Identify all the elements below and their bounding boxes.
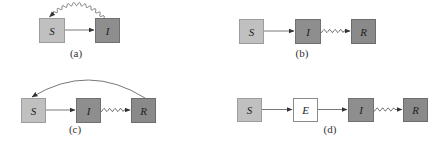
node-label: S: [249, 26, 255, 38]
node-label: S: [49, 25, 55, 37]
compartmental-model-diagram: SI(a)SIR(b)SIR(c)SEIR(d): [0, 0, 445, 144]
node-label: R: [139, 105, 147, 117]
panel-b: SIR(b): [240, 20, 376, 61]
caption-b: (b): [296, 47, 309, 60]
node-recovered-r: R: [404, 99, 428, 122]
caption-d: (d): [324, 123, 337, 136]
edge-r-to-s-arrow: [32, 80, 145, 98]
node-susceptible-s: S: [40, 19, 65, 43]
node-infected-i: I: [349, 99, 374, 122]
edge-i-to-r-wavy-arrow: [373, 108, 402, 111]
node-label: E: [301, 104, 309, 116]
edge-i-to-r-wavy-arrow: [100, 108, 130, 111]
caption-a: (a): [70, 47, 83, 60]
node-susceptible-s: S: [240, 20, 264, 44]
node-infected-i: I: [96, 19, 120, 43]
node-label: S: [247, 104, 253, 116]
node-label: R: [411, 104, 419, 116]
node-recovered-r: R: [132, 99, 156, 123]
panel-a: SI(a): [40, 3, 120, 60]
node-infected-i: I: [77, 99, 101, 123]
caption-c: (c): [69, 123, 82, 136]
node-label: R: [359, 26, 367, 38]
node-infected-i: I: [296, 20, 321, 44]
panel-c: SIR(c): [22, 80, 156, 136]
panel-d: SEIR(d): [238, 99, 428, 137]
node-exposed-e: E: [294, 99, 318, 122]
node-susceptible-s: S: [22, 99, 46, 123]
edge-i-to-s-wavy-arrow: [50, 3, 105, 18]
edge-i-to-r-wavy-arrow: [320, 29, 350, 32]
node-label: S: [31, 105, 37, 117]
node-recovered-r: R: [352, 20, 376, 44]
node-susceptible-s: S: [238, 99, 262, 122]
